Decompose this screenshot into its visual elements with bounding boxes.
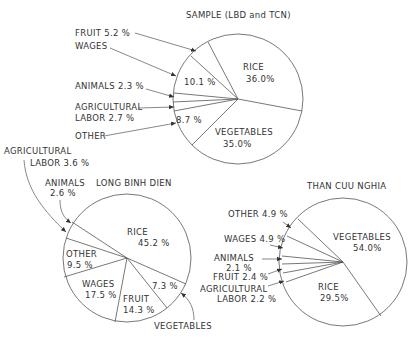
slice-value-vegetables: 7.3 %: [152, 281, 178, 291]
callout-agri-labor: AGRICULTURAL: [4, 146, 72, 156]
slice-label-rice: RICE: [127, 227, 148, 237]
pie-title-sample: SAMPLE (LBD and TCN): [186, 10, 291, 20]
callout-fruit: FRUIT 5.2 %: [75, 28, 130, 38]
pie-title-lbd: LONG BINH DIEN: [96, 178, 172, 188]
slice-label-rice: RICE: [318, 282, 339, 292]
pie-title-tcn: THAN CUU NGHIA: [306, 181, 386, 191]
callout-agri-labor-value: LABOR 3.6 %: [30, 158, 89, 168]
pie-than-cuu-nghia: THAN CUU NGHIA VEGETABLES 54.0% RICE 29.…: [200, 181, 407, 326]
callout-vegetables: VEGETABLES: [154, 321, 212, 331]
callout-wages: WAGES 4.9 %: [224, 234, 285, 244]
slice-label-vegetables: VEGETABLES: [215, 127, 273, 137]
slice-label-wages: WAGES: [82, 279, 114, 289]
callout-agri-labor: AGRICULTURAL: [200, 284, 268, 294]
callout-agri-labor-value: LABOR 2.2 %: [217, 294, 276, 304]
callout-agri-labor-value: LABOR 2.7 %: [75, 113, 134, 123]
pie-sample: SAMPLE (LBD and TCN) RICE 36.0% VEGETABL…: [75, 10, 303, 164]
callout-other: OTHER 4.9 %: [228, 209, 288, 219]
callout-other: OTHER: [75, 131, 106, 141]
slice-value-wages: 17.5 %: [85, 290, 117, 300]
callout-agri-labor: AGRICULTURAL: [75, 102, 143, 112]
slice-value-fruit: 14.3 %: [123, 305, 155, 315]
callout-fruit: FRUIT 2.4 %: [213, 272, 268, 282]
slice-label-vegetables: VEGETABLES: [333, 232, 391, 242]
pie-chart-figure: SAMPLE (LBD and TCN) RICE 36.0% VEGETABL…: [0, 0, 414, 343]
slice-label-fruit: FRUIT: [123, 294, 150, 304]
slice-value-other: 8.7 %: [176, 115, 202, 125]
slice-value-other: 9.5 %: [67, 260, 93, 270]
slice-value-vegetables: 35.0%: [223, 139, 252, 149]
slice-value-rice: 29.5%: [320, 293, 349, 303]
callout-animals: ANIMALS 2.3 %: [75, 81, 144, 91]
callout-wages: WAGES: [75, 41, 107, 51]
slice-label-rice: RICE: [243, 62, 264, 72]
slice-label-other: OTHER: [66, 249, 97, 259]
pie-long-binh-dien: LONG BINH DIEN RICE 45.2 % OTHER 9.5 % W…: [4, 146, 212, 331]
slice-value-rice: 36.0%: [246, 74, 275, 84]
slice-value-vegetables: 54.0%: [353, 243, 382, 253]
callout-animals: ANIMALS: [214, 253, 254, 263]
slice-value-wages: 10.1 %: [184, 77, 216, 87]
slice-value-rice: 45.2 %: [138, 238, 170, 248]
chart-canvas: SAMPLE (LBD and TCN) RICE 36.0% VEGETABL…: [0, 0, 414, 343]
callout-animals: ANIMALS: [45, 178, 85, 188]
callout-animals-value: 2.6 %: [50, 188, 76, 198]
